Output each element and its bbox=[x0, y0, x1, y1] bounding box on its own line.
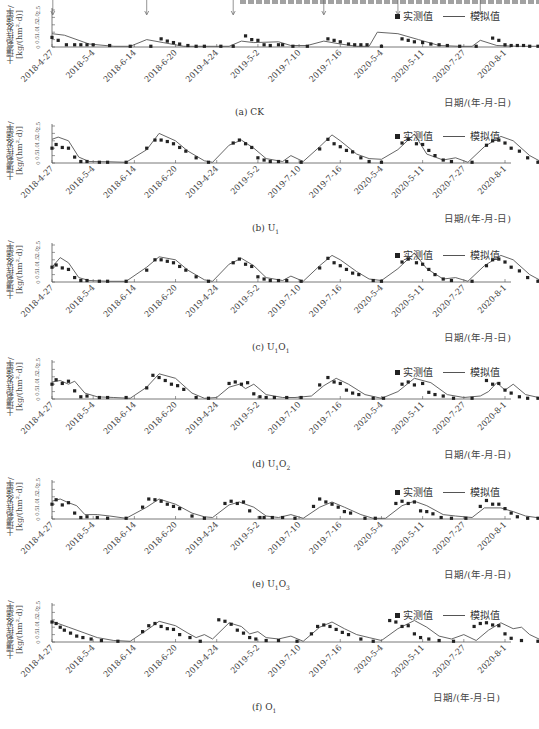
measured-point bbox=[372, 640, 375, 643]
measured-point bbox=[497, 624, 500, 627]
measured-point bbox=[248, 636, 251, 639]
measured-point bbox=[491, 623, 494, 626]
measured-point bbox=[473, 625, 476, 628]
measured-point bbox=[407, 624, 410, 627]
x-tick-label: 2018-6-20 bbox=[142, 642, 179, 679]
measured-point bbox=[322, 623, 325, 626]
x-tick-label: 2018-5-4 bbox=[64, 642, 97, 675]
measured-point bbox=[295, 640, 298, 643]
measured-point bbox=[277, 639, 280, 642]
measured-point bbox=[359, 637, 362, 640]
measured-point bbox=[265, 639, 268, 642]
measured-point bbox=[116, 640, 119, 643]
measured-point bbox=[75, 634, 78, 637]
measured-point bbox=[100, 639, 103, 642]
measured-point bbox=[50, 620, 53, 623]
measured-point bbox=[452, 640, 455, 643]
measured-point bbox=[63, 629, 66, 632]
measured-point bbox=[90, 637, 93, 640]
measured-point bbox=[388, 619, 391, 622]
simulated-line-icon bbox=[443, 615, 465, 616]
measured-point bbox=[236, 629, 239, 632]
measured-point bbox=[316, 625, 319, 628]
measured-point bbox=[188, 636, 191, 639]
measured-point bbox=[341, 631, 344, 634]
measured-point bbox=[69, 632, 72, 635]
measured-point bbox=[427, 637, 430, 640]
y-tick-label: 0 bbox=[35, 640, 41, 643]
x-tick-label: 2020-5-11 bbox=[389, 642, 426, 679]
measured-point bbox=[172, 628, 175, 631]
y-axis-label: 土壤氨挥发速率/[kg/(hm²·d)] bbox=[6, 575, 34, 685]
x-tick-label: 2020-5-4 bbox=[352, 642, 385, 675]
x-tick-label: 2019-7-16 bbox=[307, 642, 344, 679]
measured-point bbox=[147, 624, 150, 627]
simulated-line bbox=[52, 621, 539, 642]
measured-point bbox=[400, 625, 403, 628]
measured-point bbox=[178, 633, 181, 636]
measured-point bbox=[223, 620, 226, 623]
measured-point bbox=[335, 628, 338, 631]
panel-caption: (f) O1 bbox=[252, 702, 276, 714]
x-tick-label: 2020-7-27 bbox=[430, 642, 467, 679]
measured-point bbox=[141, 630, 144, 633]
measured-point bbox=[59, 626, 62, 629]
measured-point bbox=[199, 640, 202, 643]
measured-point bbox=[160, 625, 163, 628]
y-tick-label: 2.5 bbox=[35, 601, 41, 609]
measured-point bbox=[520, 639, 523, 642]
measured-point bbox=[217, 618, 220, 621]
x-tick-label: 2019-4-24 bbox=[183, 642, 220, 679]
x-tick-label: 2019-5-2 bbox=[228, 642, 261, 675]
measured-point bbox=[347, 633, 350, 636]
measured-marker-icon bbox=[395, 613, 400, 618]
measured-point bbox=[153, 622, 156, 625]
legend-simulated: 模拟值 bbox=[470, 610, 500, 621]
measured-point bbox=[419, 636, 422, 639]
measured-point bbox=[479, 622, 482, 625]
legend: 实测值模拟值 bbox=[395, 607, 500, 622]
measured-point bbox=[254, 637, 257, 640]
measured-point bbox=[242, 632, 245, 635]
measured-point bbox=[310, 632, 313, 635]
measured-point bbox=[166, 627, 169, 630]
legend-measured: 实测值 bbox=[403, 610, 433, 621]
x-tick-label: 2019-7-10 bbox=[266, 642, 303, 679]
measured-point bbox=[503, 632, 506, 635]
measured-point bbox=[413, 632, 416, 635]
measured-point bbox=[55, 622, 58, 625]
measured-point bbox=[328, 625, 331, 628]
measured-point bbox=[438, 639, 441, 642]
measured-point bbox=[510, 637, 513, 640]
x-tick-label: 2020-8-1 bbox=[475, 642, 508, 675]
measured-point bbox=[81, 636, 84, 639]
x-tick-label: 2018-6-14 bbox=[101, 642, 138, 679]
x-axis-title: 日期/(年-月-日) bbox=[433, 690, 500, 704]
measured-point bbox=[230, 623, 233, 626]
